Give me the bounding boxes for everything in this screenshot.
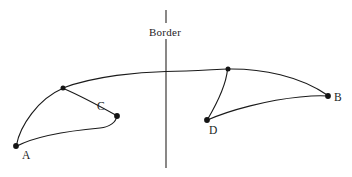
curve-junction-right-to-d <box>208 70 228 120</box>
curve-junction-left-to-c <box>64 89 117 116</box>
node-dot-c <box>114 113 120 119</box>
node-dot-b <box>325 93 331 99</box>
node-dot-group <box>13 67 331 149</box>
curve-upper-trunk <box>63 69 228 88</box>
node-label-b: B <box>334 92 342 104</box>
curve-group <box>17 69 329 146</box>
node-label-c: C <box>97 101 105 113</box>
curve-junction-right-to-b <box>228 69 328 96</box>
node-label-d: D <box>209 125 218 137</box>
curve-d-to-b-lower <box>208 96 328 120</box>
node-dot-junction-right <box>226 67 231 72</box>
node-dot-d <box>204 117 210 123</box>
curve-a-to-junction-left <box>17 89 63 146</box>
curve-a-to-c-lower <box>17 116 117 146</box>
border-label: Border <box>146 26 184 39</box>
node-dot-junction-left <box>61 86 66 91</box>
node-dot-a <box>13 143 19 149</box>
node-label-a: A <box>22 150 31 162</box>
figure-root: Border A C D B <box>0 0 352 177</box>
